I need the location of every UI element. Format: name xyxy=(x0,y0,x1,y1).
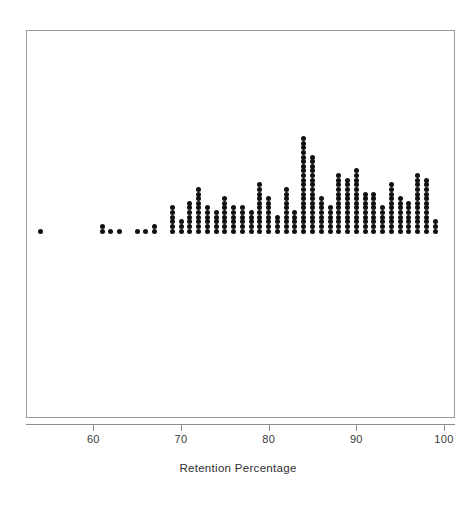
data-dot xyxy=(222,210,227,215)
data-dot xyxy=(301,159,306,164)
data-dot xyxy=(170,229,175,234)
data-dot xyxy=(415,192,420,197)
data-dot xyxy=(284,196,289,201)
data-dot xyxy=(214,224,219,229)
data-dot xyxy=(345,201,350,206)
data-dot xyxy=(336,219,341,224)
data-dot xyxy=(319,210,324,215)
data-dot xyxy=(231,219,236,224)
data-dot xyxy=(301,196,306,201)
data-dot xyxy=(319,229,324,234)
data-dot xyxy=(187,229,192,234)
data-dot xyxy=(354,173,359,178)
data-dot xyxy=(371,219,376,224)
data-dot xyxy=(301,215,306,220)
data-dot xyxy=(205,229,210,234)
data-dot xyxy=(196,224,201,229)
data-dot xyxy=(328,210,333,215)
data-dot xyxy=(249,219,254,224)
data-dot xyxy=(292,229,297,234)
data-dot xyxy=(371,205,376,210)
data-dot xyxy=(354,187,359,192)
x-axis-line xyxy=(26,424,455,425)
data-dot xyxy=(406,201,411,206)
data-dot xyxy=(336,187,341,192)
data-dot xyxy=(214,215,219,220)
data-dot xyxy=(424,187,429,192)
data-dot xyxy=(187,210,192,215)
data-dot xyxy=(143,229,148,234)
data-dot xyxy=(389,201,394,206)
data-dot xyxy=(205,215,210,220)
data-dot xyxy=(389,219,394,224)
data-dot xyxy=(336,173,341,178)
data-dot xyxy=(301,150,306,155)
data-dot xyxy=(336,182,341,187)
data-dot xyxy=(310,164,315,169)
data-dot xyxy=(170,219,175,224)
data-dot xyxy=(117,229,122,234)
data-dot xyxy=(249,224,254,229)
data-dot xyxy=(424,205,429,210)
data-dot xyxy=(222,224,227,229)
data-dot xyxy=(301,210,306,215)
data-dot xyxy=(301,145,306,150)
data-dot xyxy=(345,178,350,183)
data-dot xyxy=(354,215,359,220)
data-dot xyxy=(310,229,315,234)
dot-plot-figure: 60708090100 Retention Percentage xyxy=(0,0,476,513)
data-dot xyxy=(345,205,350,210)
data-dot xyxy=(266,196,271,201)
data-dot xyxy=(406,229,411,234)
data-dot xyxy=(328,219,333,224)
data-dot xyxy=(406,205,411,210)
data-dot xyxy=(301,141,306,146)
data-dot xyxy=(187,205,192,210)
data-dot xyxy=(354,201,359,206)
x-tick-label-70: 70 xyxy=(161,433,201,445)
data-dot xyxy=(100,224,105,229)
data-dot xyxy=(424,229,429,234)
x-tick-100 xyxy=(444,424,445,431)
data-dot xyxy=(284,215,289,220)
data-dot xyxy=(319,201,324,206)
data-dot xyxy=(196,201,201,206)
data-dot xyxy=(196,219,201,224)
x-axis-title: Retention Percentage xyxy=(0,462,476,474)
data-dot xyxy=(292,210,297,215)
data-dot xyxy=(398,196,403,201)
data-dot xyxy=(336,178,341,183)
data-dot xyxy=(319,224,324,229)
data-dot xyxy=(345,196,350,201)
data-dot xyxy=(310,215,315,220)
x-tick-label-100: 100 xyxy=(424,433,464,445)
data-dot xyxy=(415,187,420,192)
data-dot xyxy=(398,224,403,229)
data-dot xyxy=(345,224,350,229)
data-dot xyxy=(345,182,350,187)
data-dot xyxy=(301,168,306,173)
data-dot xyxy=(371,210,376,215)
data-dot xyxy=(152,229,157,234)
data-dot xyxy=(257,187,262,192)
data-dot xyxy=(406,215,411,220)
data-dot xyxy=(406,210,411,215)
data-dot xyxy=(196,210,201,215)
data-dot xyxy=(310,187,315,192)
data-dot xyxy=(310,224,315,229)
data-dot xyxy=(266,215,271,220)
data-dot xyxy=(135,229,140,234)
data-dot xyxy=(424,210,429,215)
data-dot xyxy=(363,201,368,206)
data-dot xyxy=(336,192,341,197)
data-dot xyxy=(371,224,376,229)
x-tick-label-80: 80 xyxy=(249,433,289,445)
data-dot xyxy=(292,219,297,224)
data-dot xyxy=(345,210,350,215)
data-dot xyxy=(363,196,368,201)
data-dot xyxy=(371,192,376,197)
data-dot xyxy=(301,229,306,234)
data-dot xyxy=(345,229,350,234)
data-dot xyxy=(415,205,420,210)
data-dot xyxy=(284,229,289,234)
